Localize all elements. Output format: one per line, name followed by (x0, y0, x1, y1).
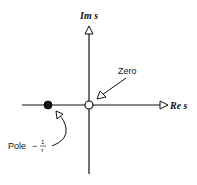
pole-label: Pole (8, 141, 26, 151)
real-axis-arrowhead-icon (160, 101, 168, 109)
zero-pointer-arrowhead-icon (97, 91, 106, 99)
pole-zero-diagram: Im s Re s Zero Pole − 1 τ (0, 0, 197, 185)
pole-value-sign: − (32, 141, 37, 151)
pole-pointer-curve (52, 115, 66, 146)
imaginary-axis-arrowhead-icon (85, 26, 93, 34)
zero-marker (85, 101, 93, 109)
zero-pointer-line (102, 78, 126, 95)
zero-label: Zero (118, 66, 137, 76)
real-axis-label: Re s (169, 100, 188, 111)
pole-marker (44, 101, 52, 109)
pole-value-numerator: 1 (41, 139, 45, 145)
imaginary-axis-label: Im s (79, 10, 98, 21)
pole-value-denominator: τ (41, 147, 44, 153)
